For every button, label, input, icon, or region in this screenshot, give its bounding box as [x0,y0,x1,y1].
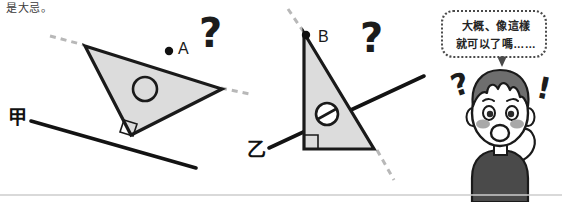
line-label-jia: 甲 [8,108,27,127]
illustration-page: 是大忌。 [0,0,562,202]
dashed-extension-right-lower [377,150,394,180]
character-blush-right [510,120,524,129]
dashed-extension-left-upper [50,36,84,45]
character-mouth [491,125,509,141]
point-a-dot [165,47,173,55]
svg-text:!: ! [534,70,555,107]
float-question-mark-icon: ? [446,65,473,104]
line-label-yi: 乙 [247,140,266,159]
character-blush-left [476,120,490,129]
speech-bubble-tail [497,56,507,67]
right-diagram [269,9,424,180]
question-mark-right: ? [360,18,383,58]
dashed-extension-right-upper [288,9,303,31]
speech-bubble: 大概、像這樣 就可以了嗎…… [441,10,547,58]
vertex-label-a: A [178,41,189,57]
character-pupil-right [508,111,514,117]
character-pupil-left [487,111,493,117]
float-exclamation-mark-icon: ! [534,70,555,107]
question-mark-left: ? [199,13,222,53]
vertex-label-b: B [318,29,329,45]
speech-bubble-line-1: 大概、像這樣 [443,21,549,32]
svg-text:?: ? [446,65,473,104]
triangle-shape-left [85,46,222,135]
speech-bubble-line-2: 就可以了嗎…… [443,39,549,50]
character-shirt [472,150,528,202]
point-b-dot [302,31,310,39]
line-jia [31,121,196,168]
confused-boy-character: ? ! [446,65,554,202]
